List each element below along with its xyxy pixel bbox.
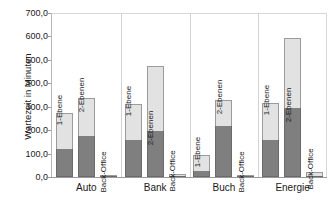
group-separator: [121, 13, 122, 177]
category-label-buch: Buch: [190, 182, 259, 202]
bar-segment-lower: [56, 149, 73, 177]
group-separator: [258, 13, 259, 177]
bar-segment-lower: [262, 140, 279, 177]
bar-segment-upper: [262, 103, 279, 140]
bar-segment-lower: [215, 126, 232, 177]
bar-segment-lower: [147, 131, 164, 177]
y-axis-tick-label: 300,0: [25, 102, 48, 112]
bar-buch-back-office[interactable]: Back-Office: [237, 175, 254, 177]
bar-energie-2-ebenen[interactable]: 2-Ebenen: [284, 38, 301, 177]
bar-segment-lower: [125, 140, 142, 177]
bar-segment-upper: [284, 38, 301, 108]
bar-group-buch: 1-Ebene2-EbenenBack-Office: [190, 13, 259, 177]
bar-segment-upper: [125, 104, 142, 140]
y-axis-tick: [46, 83, 51, 84]
y-axis-tick-label: 400,0: [25, 78, 48, 88]
y-axis-tick-label: 500,0: [25, 55, 48, 65]
bar-auto-back-office[interactable]: Back-Office: [100, 175, 117, 177]
bar-energie-back-office[interactable]: Back-Office: [306, 172, 323, 177]
bar-segment-lower: [284, 108, 301, 177]
bar-bank-back-office[interactable]: Back-Office: [169, 174, 186, 177]
bar-segment-lower: [193, 171, 210, 177]
bar-segment-upper: [215, 100, 232, 126]
bar-segment-lower: [306, 176, 323, 177]
bar-bank-2-ebenen[interactable]: 2-Ebenen: [147, 66, 164, 177]
bar-segment-upper: [78, 98, 95, 136]
bar-auto-2-ebenen[interactable]: 2-Ebenen: [78, 98, 95, 177]
y-axis-tick: [46, 107, 51, 108]
bar-segment-upper: [56, 113, 73, 149]
y-axis-tick-labels: 700,0600,0500,0400,0300,0200,0100,00,0: [18, 0, 48, 204]
bar-segment-lower: [78, 136, 95, 177]
bar-group-energie: 1-Ebene2-EbenenBack-Office: [258, 13, 327, 177]
y-axis-tick-label: 100,0: [25, 149, 48, 159]
bar-bank-1-ebene[interactable]: 1-Ebene: [125, 104, 142, 177]
bar-buch-1-ebene[interactable]: 1-Ebene: [193, 155, 210, 177]
group-separator: [190, 13, 191, 177]
y-axis-tick: [46, 60, 51, 61]
category-label-bank: Bank: [121, 182, 190, 202]
bar-chart: Wartezeit in Minuten 700,0600,0500,0400,…: [0, 0, 328, 204]
bar-auto-1-ebene[interactable]: 1-Ebene: [56, 113, 73, 177]
y-axis-tick: [46, 36, 51, 37]
y-axis-tick: [46, 177, 51, 178]
bar-group-auto: 1-Ebene2-EbenenBack-Office: [52, 13, 121, 177]
y-axis-tick-label: 600,0: [25, 31, 48, 41]
y-axis-tick: [46, 130, 51, 131]
x-axis-category-labels: AutoBankBuchEnergie: [52, 182, 327, 202]
x-axis-line: [51, 177, 327, 178]
bar-segment-lower: [237, 176, 254, 177]
bar-energie-1-ebene[interactable]: 1-Ebene: [262, 103, 279, 177]
y-axis-tick-label: 200,0: [25, 125, 48, 135]
bar-buch-2-ebenen[interactable]: 2-Ebenen: [215, 100, 232, 177]
y-axis-tick-label: 700,0: [25, 8, 48, 18]
bar-segment-lower: [100, 176, 117, 177]
category-label-energie: Energie: [258, 182, 327, 202]
y-axis-tick: [46, 154, 51, 155]
bar-group-bank: 1-Ebene2-EbenenBack-Office: [121, 13, 190, 177]
bar-segment-upper: [147, 66, 164, 131]
bar-segment-upper: [193, 155, 210, 171]
bar-segment-lower: [169, 176, 186, 177]
category-label-auto: Auto: [52, 182, 121, 202]
y-axis-tick: [46, 13, 51, 14]
